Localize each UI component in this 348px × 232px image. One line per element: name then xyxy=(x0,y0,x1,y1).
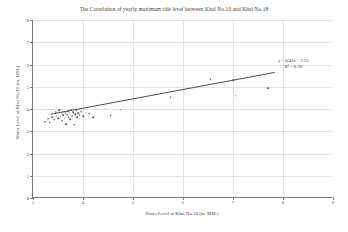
data-point xyxy=(210,79,212,81)
x-tick-label: 5 xyxy=(132,200,134,205)
data-point xyxy=(70,109,72,111)
data-point xyxy=(69,118,71,120)
y-tick-mark xyxy=(30,65,33,66)
data-point xyxy=(120,109,122,111)
data-point xyxy=(61,120,63,122)
y-tick-label: 8 xyxy=(27,18,29,23)
trendline xyxy=(33,20,332,197)
data-point xyxy=(58,109,60,111)
data-point xyxy=(44,121,46,123)
x-tick-label: 4 xyxy=(82,200,84,205)
data-point xyxy=(51,116,53,118)
data-point xyxy=(57,118,59,120)
data-point xyxy=(76,116,78,118)
data-point xyxy=(72,111,74,113)
y-tick-mark xyxy=(30,154,33,155)
data-point xyxy=(66,114,68,116)
y-tick-mark xyxy=(30,20,33,21)
data-point xyxy=(49,122,51,124)
plot-inner xyxy=(33,20,332,197)
data-point xyxy=(53,119,55,121)
data-point xyxy=(62,114,64,116)
chart-root: The Correlation of yearly maximum tide l… xyxy=(0,0,348,232)
y-tick-label: 6 xyxy=(27,62,29,67)
y-tick-label: 3 xyxy=(27,129,29,134)
data-point xyxy=(56,115,58,117)
data-point xyxy=(71,115,73,117)
data-point xyxy=(170,97,172,99)
x-tick-label: 7 xyxy=(232,200,234,205)
data-point xyxy=(110,114,112,116)
data-point xyxy=(92,117,94,119)
y-tick-label: 2 xyxy=(27,151,29,156)
x-axis-title: Water Level at Khal No.18 (m. MSL) xyxy=(32,211,332,216)
y-tick-label: 0 xyxy=(27,196,29,201)
y-tick-mark xyxy=(30,176,33,177)
regression-annotation: y = 0.42x + 2.33 R² = 0.78 xyxy=(278,58,308,70)
data-point xyxy=(73,124,75,126)
data-point xyxy=(235,95,237,97)
y-tick-label: 5 xyxy=(27,84,29,89)
data-point xyxy=(64,117,66,119)
data-point xyxy=(75,110,77,112)
y-tick-mark xyxy=(30,42,33,43)
y-axis-title: Water Level at Khal No.10 (m. MSL) xyxy=(15,48,20,158)
plot-area: 012345678 3456789 xyxy=(32,20,332,198)
data-point xyxy=(105,108,107,110)
data-point xyxy=(82,115,84,117)
regression-r2: R² = 0.78 xyxy=(278,64,308,70)
data-point xyxy=(74,114,76,116)
x-tick-label: 8 xyxy=(282,200,284,205)
data-point xyxy=(69,112,71,114)
y-tick-mark xyxy=(30,87,33,88)
y-tick-label: 7 xyxy=(27,40,29,45)
y-tick-label: 4 xyxy=(27,107,29,112)
data-point xyxy=(267,88,269,90)
chart-title: The Correlation of yearly maximum tide l… xyxy=(0,6,348,12)
data-point xyxy=(85,112,87,114)
y-tick-mark xyxy=(30,109,33,110)
data-point xyxy=(80,111,82,113)
y-tick-label: 1 xyxy=(27,173,29,178)
x-tick-label: 6 xyxy=(182,200,184,205)
data-point xyxy=(55,111,57,113)
data-point xyxy=(47,118,49,120)
data-point xyxy=(88,113,90,115)
x-tick-label: 3 xyxy=(32,200,34,205)
data-point xyxy=(232,79,234,81)
data-point xyxy=(60,116,62,118)
x-tick-label: 9 xyxy=(332,200,334,205)
data-point xyxy=(79,114,81,116)
y-tick-mark xyxy=(30,131,33,132)
data-point xyxy=(65,123,67,125)
